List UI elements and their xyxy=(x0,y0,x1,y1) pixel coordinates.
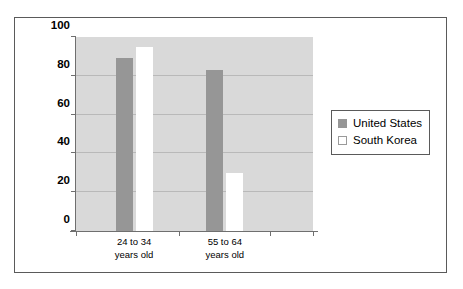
y-axis-tick-mark xyxy=(71,75,75,76)
x-axis-tick-mark xyxy=(313,231,314,236)
x-axis-tick-mark xyxy=(270,231,271,236)
legend-item: United States xyxy=(338,115,422,132)
y-axis-tick-label: 100 xyxy=(40,20,70,31)
x-axis-line xyxy=(70,231,318,232)
legend-label: South Korea xyxy=(353,134,417,147)
y-axis-tick-mark xyxy=(71,114,75,115)
y-axis-tick-mark xyxy=(71,230,75,231)
legend-label: United States xyxy=(353,117,422,130)
bar-united-states xyxy=(206,70,223,231)
legend-swatch-united-states xyxy=(338,119,347,128)
chart-figure: Percentage of Population 020406080100 24… xyxy=(0,0,463,289)
gridline xyxy=(76,114,313,115)
y-axis-tick-mark xyxy=(71,152,75,153)
chart-legend: United StatesSouth Korea xyxy=(331,110,430,155)
x-axis-category-line: years old xyxy=(170,249,280,262)
y-axis-tick-labels: 020406080100 xyxy=(38,37,70,231)
x-axis-tick-labels: 24 to 34years old55 to 64years old xyxy=(76,236,313,270)
plot-area xyxy=(76,37,313,231)
y-axis-tick-label: 60 xyxy=(40,98,70,109)
x-axis-category-label: 55 to 64years old xyxy=(170,236,280,261)
y-axis-tick-label: 40 xyxy=(40,136,70,147)
y-axis-tick-label: 20 xyxy=(40,175,70,186)
legend-swatch-south-korea xyxy=(338,136,347,145)
gridline xyxy=(76,152,313,153)
x-axis-tick-mark xyxy=(76,231,77,236)
gridline xyxy=(76,75,313,76)
y-axis-tick-mark xyxy=(71,36,75,37)
y-axis-line xyxy=(75,36,76,232)
bar-south-korea xyxy=(226,173,243,231)
bar-south-korea xyxy=(136,47,153,231)
y-axis-tick-label: 80 xyxy=(40,59,70,70)
x-axis-category-line: 55 to 64 xyxy=(170,236,280,249)
gridline xyxy=(76,191,313,192)
y-axis-tick-label: 0 xyxy=(40,214,70,225)
y-axis-tick-mark xyxy=(71,191,75,192)
bar-united-states xyxy=(116,58,133,231)
legend-item: South Korea xyxy=(338,132,422,149)
x-axis-tick-mark xyxy=(179,231,180,236)
